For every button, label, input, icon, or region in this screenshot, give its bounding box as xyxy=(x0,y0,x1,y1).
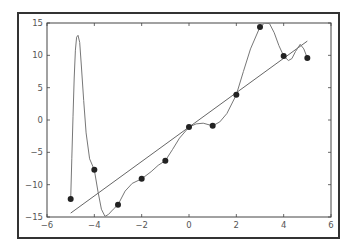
data-point xyxy=(68,196,74,202)
data-point xyxy=(115,202,121,208)
data-point xyxy=(304,55,310,61)
data-point xyxy=(210,123,216,129)
y-tick-label: 10 xyxy=(32,50,43,60)
x-tick-label: −2 xyxy=(135,220,148,230)
x-tick-label: −4 xyxy=(88,220,101,230)
plot-area xyxy=(47,23,331,217)
x-tick-label: 0 xyxy=(186,220,191,230)
data-point xyxy=(162,158,168,164)
scatter-plot-chart: −6−4−20246151050−5−10−15 xyxy=(0,0,358,248)
x-tick-label: 6 xyxy=(328,220,333,230)
x-tick-label: 2 xyxy=(234,220,239,230)
x-tick-label: 4 xyxy=(281,220,286,230)
data-point xyxy=(186,124,192,130)
y-tick-label: 15 xyxy=(32,18,43,28)
data-point xyxy=(281,53,287,59)
data-point xyxy=(91,167,97,173)
data-point xyxy=(233,92,239,98)
y-tick-label: −10 xyxy=(25,180,43,190)
data-point xyxy=(139,176,145,182)
data-point xyxy=(257,24,263,30)
y-tick-label: −15 xyxy=(25,212,43,222)
y-tick-label: −5 xyxy=(30,147,43,157)
y-tick-label: 5 xyxy=(38,83,43,93)
plot-axes xyxy=(47,23,331,217)
y-tick-label: 0 xyxy=(38,115,43,125)
